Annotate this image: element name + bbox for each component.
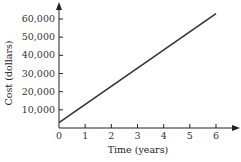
x-tick-label: 3 bbox=[134, 130, 140, 141]
y-tick-label: 30,000 bbox=[22, 68, 55, 79]
y-tick-label: 40,000 bbox=[22, 49, 55, 60]
y-axis-label: Cost (dollars) bbox=[3, 40, 14, 105]
y-tick-label: 50,000 bbox=[22, 31, 55, 42]
y-tick-label: 60,000 bbox=[22, 13, 55, 24]
x-tick-label: 6 bbox=[213, 130, 219, 141]
x-tick-label: 5 bbox=[187, 130, 193, 141]
y-axis-arrow-icon bbox=[56, 2, 62, 10]
cost-line bbox=[59, 14, 216, 123]
x-tick-label: 4 bbox=[161, 130, 167, 141]
y-tick-label: 10,000 bbox=[22, 104, 55, 115]
x-axis-arrow-icon bbox=[232, 125, 240, 131]
y-axis-ticks: 10,00020,00030,00040,00050,00060,000 bbox=[22, 13, 63, 115]
line-chart: 10,00020,00030,00040,00050,00060,000 012… bbox=[0, 0, 241, 162]
x-tick-label: 0 bbox=[56, 130, 62, 141]
x-axis-label: Time (years) bbox=[108, 144, 169, 155]
y-tick-label: 20,000 bbox=[22, 86, 55, 97]
x-tick-label: 1 bbox=[82, 130, 88, 141]
x-tick-label: 2 bbox=[108, 130, 114, 141]
x-axis-ticks: 0123456 bbox=[56, 124, 219, 141]
